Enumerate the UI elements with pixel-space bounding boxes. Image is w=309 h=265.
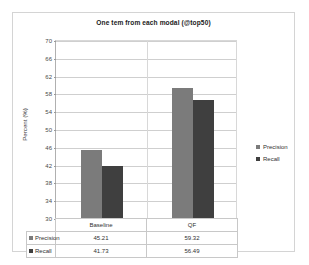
chart-legend: PrecisionRecall <box>256 144 304 168</box>
y-axis-tick-label: 38 <box>45 180 52 186</box>
bar-recall-qf <box>193 100 214 218</box>
y-axis-tick-label: 42 <box>45 163 52 169</box>
chart-data-table: BaselineQFPrecision45.2159.32Recall41.73… <box>26 218 238 258</box>
data-table-cell: 41.73 <box>56 245 147 258</box>
legend-swatch-icon <box>256 157 260 161</box>
y-axis-tick-mark <box>54 112 56 113</box>
y-axis-tick-mark <box>54 183 56 184</box>
bar-precision-qf <box>172 88 193 218</box>
y-axis-tick-label: 70 <box>45 38 52 44</box>
y-axis-tick-mark <box>54 201 56 202</box>
y-axis-tick-mark <box>54 130 56 131</box>
y-axis-tick-label: 54 <box>45 109 52 115</box>
gridline <box>56 94 236 95</box>
gridline <box>56 59 236 60</box>
legend-item-recall[interactable]: Recall <box>256 156 304 162</box>
bar-recall-baseline <box>102 166 123 218</box>
data-table-corner <box>27 219 56 232</box>
y-axis-tick-label: 66 <box>45 56 52 62</box>
legend-item-label: Recall <box>263 156 280 162</box>
data-table-cell: 56.49 <box>147 245 238 258</box>
data-table-row-header: Precision <box>27 232 56 245</box>
y-axis-tick-label: 50 <box>45 127 52 133</box>
y-axis-tick-mark <box>54 41 56 42</box>
data-table-row-label: Precision <box>35 235 60 241</box>
data-table-column-header: QF <box>147 219 238 232</box>
plot-area: 7066625854504642383430 <box>55 40 237 218</box>
data-table-body: BaselineQFPrecision45.2159.32Recall41.73… <box>27 219 238 258</box>
y-axis-tick-label: 62 <box>45 74 52 80</box>
table-row: Recall41.7356.49 <box>27 245 238 258</box>
data-table-cell: 45.21 <box>56 232 147 245</box>
chart-container: One tem from each modal (@top50) Percent… <box>12 12 295 252</box>
y-axis-tick-mark <box>54 59 56 60</box>
y-axis-tick-label: 58 <box>45 91 52 97</box>
chart-title: One tem from each modal (@top50) <box>13 19 294 26</box>
gridline <box>56 41 236 42</box>
y-axis-tick-label: 46 <box>45 145 52 151</box>
category-divider <box>147 41 148 218</box>
data-table-cell: 59.32 <box>147 232 238 245</box>
series-swatch-icon <box>29 236 33 240</box>
data-table-column-header: Baseline <box>56 219 147 232</box>
y-axis-title-label: Percent (%) <box>21 108 28 141</box>
gridline <box>56 77 236 78</box>
series-swatch-icon <box>29 249 33 253</box>
data-table-row-header: Recall <box>27 245 56 258</box>
y-axis-tick-mark <box>54 94 56 95</box>
y-axis-tick-mark <box>54 148 56 149</box>
plot-area-wrapper: 7066625854504642383430 <box>55 40 237 218</box>
bar-precision-baseline <box>81 150 102 218</box>
y-axis-title: Percent (%) <box>17 79 31 169</box>
y-axis-tick-label: 34 <box>45 198 52 204</box>
legend-item-precision[interactable]: Precision <box>256 144 304 150</box>
legend-swatch-icon <box>256 145 260 149</box>
data-table-row-label: Recall <box>35 248 52 254</box>
table-row: Precision45.2159.32 <box>27 232 238 245</box>
legend-item-label: Precision <box>263 144 288 150</box>
y-axis-tick-mark <box>54 166 56 167</box>
data-table-header-row: BaselineQF <box>27 219 238 232</box>
y-axis-tick-mark <box>54 77 56 78</box>
